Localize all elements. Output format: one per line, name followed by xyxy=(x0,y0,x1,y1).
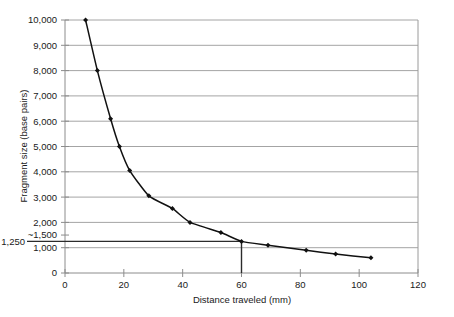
y-tick-label-1000: 1,000 xyxy=(33,242,57,253)
y-tick-label-7000: 7,000 xyxy=(33,90,57,101)
y-tick-label-8000: 8,000 xyxy=(33,65,57,76)
x-tick-label-20: 20 xyxy=(119,279,130,290)
y-tick-label-3000: 3,000 xyxy=(33,192,57,203)
unknown-fragment-reference-label: 1,250 xyxy=(1,236,25,247)
y-tick-label-10000: 10,000 xyxy=(28,14,57,25)
annotation-labels-group: 1,250 xyxy=(1,236,25,247)
fragment-size-vs-distance-chart: 01,000~1,5002,0003,0004,0005,0006,0007,0… xyxy=(0,0,454,317)
y-tick-label-5000: 5,000 xyxy=(33,141,57,152)
y-tick-label-2000: 2,000 xyxy=(33,217,57,228)
y-tick-label-1500: ~1,500 xyxy=(28,229,57,240)
x-axis-title: Distance traveled (mm) xyxy=(193,294,291,305)
chart-background xyxy=(0,0,454,317)
y-tick-label-0: 0 xyxy=(52,267,57,278)
x-tick-label-80: 80 xyxy=(295,279,306,290)
y-tick-label-9000: 9,000 xyxy=(33,40,57,51)
x-tick-label-120: 120 xyxy=(410,279,426,290)
chart-figure: 01,000~1,5002,0003,0004,0005,0006,0007,0… xyxy=(0,0,454,317)
y-tick-label-4000: 4,000 xyxy=(33,166,57,177)
x-tick-label-0: 0 xyxy=(62,279,67,290)
x-tick-label-40: 40 xyxy=(177,279,188,290)
x-tick-label-100: 100 xyxy=(351,279,367,290)
y-axis-title: Fragment size (base pairs) xyxy=(18,90,29,203)
y-tick-label-6000: 6,000 xyxy=(33,116,57,127)
x-tick-label-60: 60 xyxy=(236,279,247,290)
